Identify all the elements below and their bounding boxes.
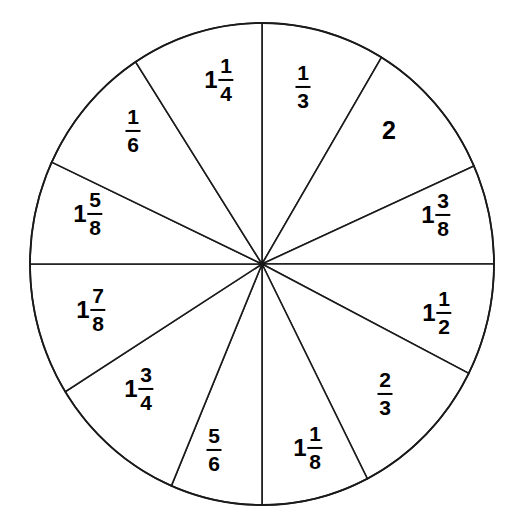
fraction-wheel-figure: 132138112231185613417815816114 (0, 0, 519, 529)
sector-group (30, 23, 494, 505)
wheel-diagram (0, 0, 519, 529)
